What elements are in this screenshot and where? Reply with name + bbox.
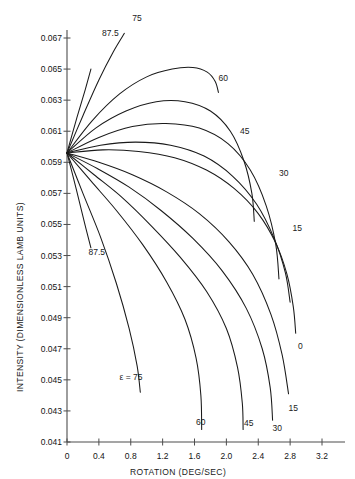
x-axis-title: ROTATION (DEG/SEC) bbox=[130, 468, 226, 477]
curve-label-60: 60 bbox=[196, 418, 205, 427]
y-tick-label: 0.041 bbox=[22, 438, 62, 447]
x-tick-label: 0.4 bbox=[84, 452, 114, 461]
curve-eps-45-6 bbox=[67, 153, 243, 430]
curve-group bbox=[67, 33, 296, 429]
x-tick-label: 0.8 bbox=[116, 452, 146, 461]
x-tick-label: 1.6 bbox=[180, 452, 210, 461]
curve-label-0: 0 bbox=[298, 342, 303, 351]
y-tick-label: 0.061 bbox=[22, 127, 62, 136]
y-tick-label: 0.047 bbox=[22, 345, 62, 354]
y-tick-label: 0.063 bbox=[22, 96, 62, 105]
curve-label-75: 75 bbox=[132, 14, 141, 23]
curve-eps-60-7 bbox=[67, 67, 218, 153]
y-axis-title: INTENSITY (DIMENSIONLESS LAMB UNITS) bbox=[16, 202, 25, 392]
y-tick-label: 0.057 bbox=[22, 189, 62, 198]
curve-eps-87.5-11 bbox=[67, 69, 91, 153]
curve-eps-15-1 bbox=[67, 142, 290, 302]
curve-label-30: 30 bbox=[279, 169, 288, 178]
y-tick-label: 0.043 bbox=[22, 407, 62, 416]
chart-figure: 0.0410.0430.0450.0470.0490.0510.0530.055… bbox=[0, 0, 355, 479]
x-tick-label: 3.2 bbox=[307, 452, 337, 461]
curve-eps-0-0 bbox=[67, 150, 296, 333]
curve-label-75: ε = 75 bbox=[120, 373, 143, 382]
y-tick-label: 0.053 bbox=[22, 252, 62, 261]
curve-eps-60-8 bbox=[67, 153, 202, 430]
curve-label-45: 45 bbox=[244, 419, 253, 428]
y-tick-label: 0.051 bbox=[22, 283, 62, 292]
x-tick-label: 2.8 bbox=[275, 452, 305, 461]
y-tick-label: 0.055 bbox=[22, 220, 62, 229]
y-tick-label: 0.065 bbox=[22, 65, 62, 74]
curve-label-87.5: 87.5 bbox=[89, 248, 106, 257]
curve-label-15: 15 bbox=[289, 404, 298, 413]
curve-label-60: 60 bbox=[218, 74, 227, 83]
y-tick-label: 0.059 bbox=[22, 158, 62, 167]
x-tick-label: 1.2 bbox=[148, 452, 178, 461]
y-tick-label: 0.045 bbox=[22, 376, 62, 385]
axes bbox=[64, 30, 346, 446]
curve-label-15: 15 bbox=[293, 224, 302, 233]
curve-label-30: 30 bbox=[273, 424, 282, 433]
curve-label-45: 45 bbox=[240, 127, 249, 136]
x-tick-label: 2.4 bbox=[243, 452, 273, 461]
curve-eps-15-2 bbox=[67, 153, 289, 394]
curve-eps-75-9 bbox=[67, 33, 124, 153]
curve-eps-75-10 bbox=[67, 153, 140, 392]
curve-label-87.5: 87.5 bbox=[102, 29, 119, 38]
x-tick-label: 0 bbox=[52, 452, 82, 461]
x-tick-label: 2.0 bbox=[211, 452, 241, 461]
y-tick-label: 0.049 bbox=[22, 314, 62, 323]
y-tick-label: 0.067 bbox=[22, 34, 62, 43]
